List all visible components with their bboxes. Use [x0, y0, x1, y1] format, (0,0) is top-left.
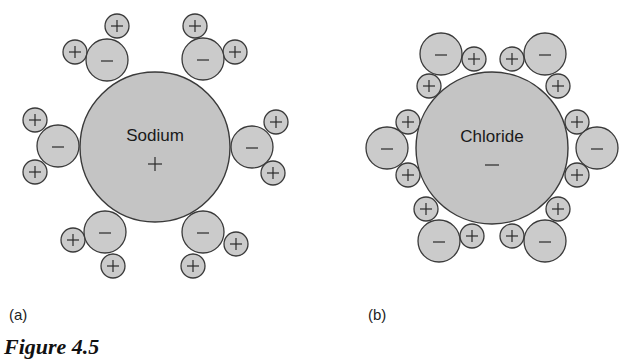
- oxygen-atom: [366, 127, 408, 169]
- hydrogen-atom: [500, 47, 524, 71]
- ion-name-label: Chloride: [460, 127, 523, 146]
- panel-a: Sodium: [23, 14, 288, 278]
- oxygen-atom: [84, 211, 126, 253]
- oxygen-atom: [524, 220, 566, 262]
- chloride-ion: Chloride: [416, 72, 568, 224]
- hydrogen-atom: [63, 40, 87, 64]
- water-molecule: [366, 110, 420, 187]
- sodium-ion: Sodium: [80, 72, 230, 222]
- hydrogen-atom: [460, 224, 484, 248]
- hydrogen-atom: [101, 254, 125, 278]
- hydrogen-atom: [546, 197, 570, 221]
- hydrogen-atom: [396, 163, 420, 187]
- oxygen-atom: [576, 127, 618, 169]
- oxygen-atom: [418, 220, 460, 262]
- water-molecule: [23, 108, 79, 184]
- hydrogen-atom: [223, 40, 247, 64]
- ion-name-label: Sodium: [126, 126, 184, 145]
- hydrogen-atom: [264, 110, 288, 134]
- hydrogen-atom: [61, 228, 85, 252]
- oxygen-atom: [37, 125, 79, 167]
- hydrogen-atom: [183, 14, 207, 38]
- panel-label-a: (a): [9, 306, 27, 323]
- hydrogen-atom: [462, 47, 486, 71]
- water-molecule: [231, 110, 288, 185]
- hydrogen-atom: [224, 232, 248, 256]
- hydrogen-atom: [23, 108, 47, 132]
- oxygen-atom: [182, 211, 224, 253]
- oxygen-atom: [86, 39, 128, 81]
- panel-b: Chloride: [366, 33, 618, 262]
- water-molecule: [63, 14, 129, 81]
- oxygen-atom: [231, 126, 273, 168]
- oxygen-atom: [182, 38, 224, 80]
- hydrogen-atom: [565, 163, 589, 187]
- hydrogen-atom: [23, 160, 47, 184]
- hydrogen-atom: [181, 254, 205, 278]
- hydrogen-atom: [414, 197, 438, 221]
- water-molecule: [182, 14, 247, 80]
- water-molecule: [565, 110, 618, 187]
- hydrogen-atom: [500, 224, 524, 248]
- oxygen-atom: [524, 33, 566, 75]
- hydrogen-atom: [546, 74, 570, 98]
- hydrogen-atom: [105, 14, 129, 38]
- water-molecule: [181, 211, 248, 278]
- figure-caption: Figure 4.5: [4, 334, 99, 360]
- water-molecule: [61, 211, 126, 278]
- oxygen-atom: [420, 33, 462, 75]
- panel-label-b: (b): [368, 306, 386, 323]
